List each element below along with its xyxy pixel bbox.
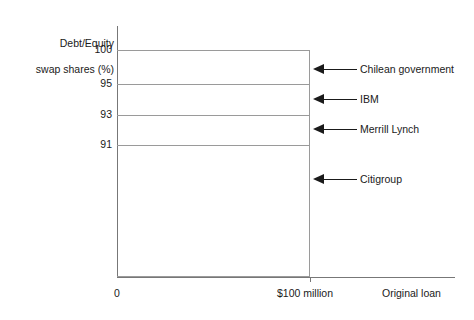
y-axis-title-line-2: swap shares (%) (0, 63, 114, 76)
y-tick-label-95: 95 (52, 78, 112, 89)
gridline-100 (117, 50, 310, 51)
gridline-95 (117, 84, 310, 85)
x-axis-line (117, 277, 455, 278)
x-axis-title: Original loan (382, 287, 441, 299)
x-tick-label-origin: 0 (114, 287, 120, 299)
callout-label: Chilean government (360, 63, 454, 75)
callout-label: Merrill Lynch (360, 123, 419, 135)
leader-line (323, 179, 357, 180)
y-tick-label-91: 91 (52, 139, 112, 150)
leader-line (323, 69, 357, 70)
y-tick-label-93: 93 (52, 109, 112, 120)
callout-label: Citigroup (360, 173, 402, 185)
chart-canvas: Debt/Equity swap shares (%) 100 95 93 91… (0, 0, 474, 320)
y-tick-label-100: 100 (52, 44, 112, 55)
gridline-93 (117, 115, 310, 116)
x-tick-mark-100-million (310, 277, 311, 282)
leader-line (323, 129, 357, 130)
x-tick-label-100-million: $100 million (277, 287, 333, 299)
gridline-91 (117, 145, 310, 146)
leader-line (323, 99, 357, 100)
callout-label: IBM (360, 93, 379, 105)
